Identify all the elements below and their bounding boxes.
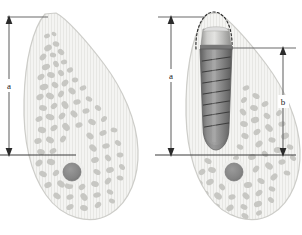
figure-container: a bbox=[0, 0, 302, 235]
dental-implant bbox=[200, 27, 232, 150]
dimension-a-label: a bbox=[7, 81, 11, 91]
mandibular-canal bbox=[222, 160, 247, 185]
dimension-b-label: b bbox=[281, 97, 286, 107]
mandibular-canal bbox=[60, 160, 85, 185]
bone-implant-diagram: a bbox=[0, 0, 302, 235]
implant-specular-highlight bbox=[212, 50, 216, 142]
implant-abutment bbox=[201, 29, 231, 45]
implant-platform bbox=[200, 45, 232, 49]
dimension-a-label: a bbox=[169, 71, 173, 81]
